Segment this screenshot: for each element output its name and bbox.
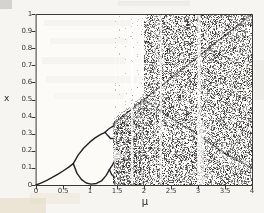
x-tick-label: 3.5 (215, 188, 235, 195)
x-tick-label: 1 (80, 188, 100, 195)
y-tick-label: 0.4 (10, 113, 32, 120)
y-tick-label: 0 (10, 182, 32, 189)
x-tick-label: 3 (188, 188, 208, 195)
y-tick-label: 0.7 (10, 62, 32, 69)
y-tick-label: 0.6 (10, 79, 32, 86)
y-tick-label: 0.9 (10, 28, 32, 35)
bifurcation-plot-canvas (0, 0, 264, 213)
y-tick-label: 0.2 (10, 147, 32, 154)
x-tick-label: 2.5 (161, 188, 181, 195)
y-tick-label: 0.3 (10, 130, 32, 137)
x-axis-label: μ (138, 197, 152, 207)
x-tick-label: 1.5 (107, 188, 127, 195)
x-tick-label: 0 (26, 188, 46, 195)
x-tick-label: 4 (242, 188, 262, 195)
y-tick-label: 0.1 (10, 164, 32, 171)
y-tick-label: 1 (10, 11, 32, 18)
x-tick-label: 0.5 (53, 188, 73, 195)
y-tick-label: 0.8 (10, 45, 32, 52)
x-tick-label: 2 (134, 188, 154, 195)
y-axis-label: x (4, 94, 9, 103)
y-tick-label: 0.5 (10, 96, 32, 103)
figure: μ x 00.511.522.533.5400.10.20.30.40.50.6… (0, 0, 264, 213)
